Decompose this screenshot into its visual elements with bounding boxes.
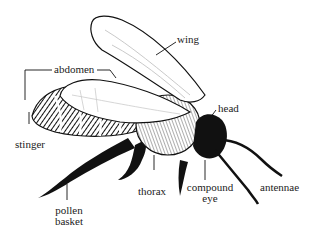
label-wing: wing: [177, 34, 199, 45]
label-antennae: antennae: [260, 182, 299, 193]
bee-illustration: [0, 0, 314, 237]
label-thorax: thorax: [138, 186, 166, 197]
label-compound-eye: compound eye: [185, 182, 235, 204]
label-compound-eye-line2: eye: [185, 193, 235, 204]
antenna-1: [220, 140, 282, 176]
hind-leg: [38, 138, 135, 198]
label-head: head: [218, 103, 239, 114]
head-body: [193, 114, 227, 158]
abdomen-leader-right: [97, 70, 116, 78]
label-pollen-basket: pollen basket: [52, 205, 86, 227]
label-stinger: stinger: [15, 139, 45, 150]
label-pollen-basket-line2: basket: [52, 216, 86, 227]
label-abdomen: abdomen: [54, 64, 94, 75]
bee-anatomy-diagram: wing abdomen head stinger thorax compoun…: [0, 0, 314, 237]
